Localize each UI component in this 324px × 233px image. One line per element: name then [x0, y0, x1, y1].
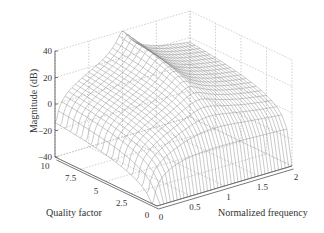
mesh-line: [89, 72, 191, 196]
mesh-line: [126, 91, 261, 171]
mesh-line: [106, 71, 241, 155]
z-tick-label: 40: [43, 46, 53, 56]
z-tick-label: 0: [48, 99, 53, 109]
mesh-line: [62, 102, 164, 204]
z-tick-label: 20: [43, 73, 53, 83]
mesh-line: [142, 107, 277, 186]
quality-axis-label: Quality factor: [46, 207, 102, 218]
quality-tick-label: 2.5: [116, 198, 128, 208]
quality-tick-label: 7.5: [65, 173, 77, 183]
z-axis-ticks: 40200−20−40: [38, 46, 53, 162]
frequency-tick-label: 2: [294, 172, 299, 182]
mesh-line: [136, 42, 238, 182]
surface-plot: 40200−20−40 02.557.510 00.511.52 Magnitu…: [0, 0, 324, 233]
z-axis-label: Magnitude (dB): [28, 69, 40, 133]
frequency-tick-label: 0.5: [189, 202, 201, 212]
frequency-tick-label: 1.5: [257, 182, 269, 192]
quality-tick-label: 0: [145, 210, 150, 220]
mesh-line: [153, 45, 255, 177]
z-tick-label: −20: [38, 126, 53, 136]
mesh-line: [152, 129, 287, 204]
frequency-tick-label: 0: [159, 212, 164, 222]
mesh-line: [81, 50, 216, 138]
mesh-line: [150, 45, 252, 178]
quality-tick-label: 10: [41, 161, 51, 171]
mesh-line: [69, 92, 171, 202]
mesh-line: [133, 41, 235, 183]
quality-tick-label: 5: [94, 186, 99, 196]
mesh-line: [146, 45, 248, 179]
frequency-axis-label: Normalized frequency: [218, 207, 308, 218]
frequency-tick-label: 1: [226, 192, 231, 202]
